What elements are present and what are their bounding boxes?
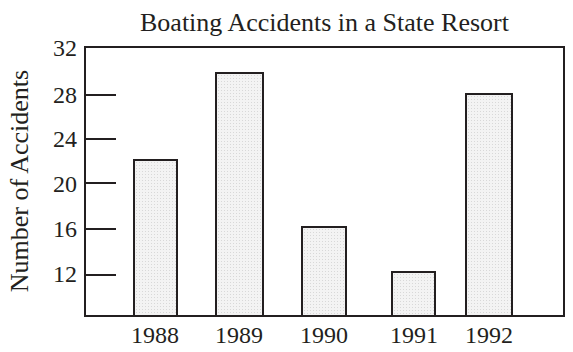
- bar-1992: [465, 93, 513, 315]
- x-tick-label-1992: 1992: [465, 322, 513, 348]
- bar-1991: [391, 271, 436, 315]
- y-tick-label-24: 24: [53, 127, 77, 151]
- chart-title: Boating Accidents in a State Resort: [84, 8, 565, 38]
- x-tick-label-1988: 1988: [131, 322, 179, 348]
- bar-1989: [215, 72, 264, 315]
- y-tick-12: [86, 274, 116, 276]
- bar-1988: [133, 159, 178, 315]
- y-tick-label-16: 16: [53, 217, 77, 241]
- x-tick-label-1990: 1990: [300, 322, 348, 348]
- plot-area: [84, 46, 565, 317]
- y-tick-28: [86, 94, 116, 96]
- y-tick-24: [86, 138, 116, 140]
- y-tick-label-12: 12: [53, 262, 77, 286]
- y-tick-label-28: 28: [53, 83, 77, 107]
- y-axis-label-text: Number of Accidents: [6, 70, 34, 292]
- bar-1990: [301, 226, 347, 315]
- y-tick-label-32: 32: [53, 36, 77, 60]
- y-tick-16: [86, 228, 116, 230]
- y-tick-20: [86, 182, 116, 184]
- x-tick-label-1989: 1989: [215, 322, 263, 348]
- x-tick-label-1991: 1991: [390, 322, 438, 348]
- y-tick-label-20: 20: [53, 172, 77, 196]
